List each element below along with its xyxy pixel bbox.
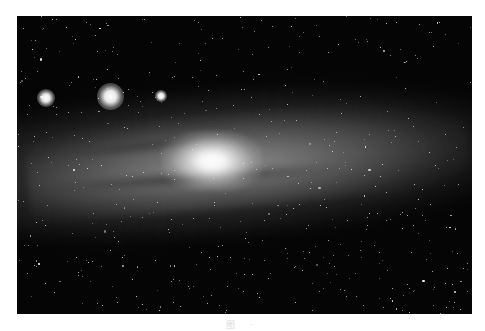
- star: [259, 114, 260, 115]
- star: [437, 23, 438, 24]
- star: [95, 87, 96, 88]
- star: [212, 38, 213, 39]
- star: [436, 102, 437, 103]
- star: [137, 96, 138, 97]
- star: [254, 31, 255, 32]
- star: [45, 283, 46, 284]
- star: [446, 227, 447, 228]
- star: [435, 165, 436, 166]
- star: [48, 157, 49, 158]
- star: [360, 250, 361, 251]
- star: [367, 217, 368, 218]
- star: [312, 283, 313, 284]
- star: [454, 302, 455, 303]
- star: [392, 288, 393, 289]
- star: [116, 204, 117, 205]
- star: [334, 266, 335, 267]
- star: [41, 16, 42, 17]
- star: [78, 76, 80, 78]
- star: [431, 32, 432, 33]
- star: [394, 130, 395, 131]
- star: [88, 262, 90, 264]
- star: [171, 219, 172, 220]
- star: [382, 260, 383, 261]
- star: [152, 92, 153, 93]
- star: [128, 105, 129, 106]
- star: [35, 40, 36, 41]
- star: [105, 50, 106, 51]
- star: [225, 193, 226, 194]
- star: [90, 24, 91, 25]
- star: [160, 306, 162, 308]
- star: [340, 244, 341, 245]
- star: [56, 114, 57, 115]
- star: [383, 50, 385, 52]
- star: [192, 149, 193, 150]
- star: [470, 27, 471, 28]
- star: [332, 151, 333, 152]
- star: [324, 139, 325, 140]
- star: [216, 108, 217, 109]
- star: [344, 290, 345, 291]
- star: [38, 263, 40, 265]
- star: [201, 154, 202, 155]
- star: [93, 213, 94, 214]
- star: [155, 97, 156, 98]
- star: [414, 184, 415, 185]
- star: [72, 233, 73, 234]
- star: [137, 266, 139, 268]
- star: [463, 127, 464, 128]
- star: [259, 297, 260, 298]
- star: [132, 176, 133, 177]
- star: [180, 306, 181, 307]
- star: [196, 144, 197, 145]
- star: [336, 182, 337, 183]
- star: [383, 307, 384, 308]
- star: [285, 248, 286, 249]
- star: [240, 221, 241, 222]
- star: [430, 253, 431, 254]
- star: [198, 86, 199, 87]
- star: [280, 218, 281, 219]
- star: [379, 263, 380, 264]
- star: [286, 214, 287, 215]
- star: [244, 274, 245, 275]
- star: [380, 47, 381, 48]
- star: [133, 199, 134, 200]
- star: [82, 303, 83, 304]
- star: [386, 192, 387, 193]
- star: [364, 175, 365, 176]
- star: [355, 39, 356, 40]
- star: [124, 207, 126, 209]
- star: [165, 140, 166, 141]
- star: [433, 289, 434, 290]
- star: [46, 48, 47, 49]
- star: [387, 111, 388, 112]
- star: [36, 260, 38, 262]
- star: [28, 245, 29, 246]
- star: [361, 204, 362, 205]
- star: [433, 305, 434, 306]
- star: [242, 27, 243, 28]
- star: [452, 251, 453, 252]
- star: [140, 101, 141, 102]
- star: [168, 174, 169, 175]
- star: [29, 105, 30, 106]
- star: [419, 24, 420, 25]
- star: [118, 241, 119, 242]
- star: [76, 257, 77, 258]
- star: [238, 288, 239, 289]
- star: [367, 225, 368, 226]
- star: [291, 67, 292, 68]
- star: [246, 232, 247, 233]
- star: [285, 85, 286, 86]
- star: [216, 75, 217, 76]
- star: [329, 263, 330, 264]
- star: [253, 79, 254, 80]
- star: [209, 257, 210, 258]
- star: [295, 18, 296, 19]
- star: [411, 252, 412, 253]
- star: [184, 113, 185, 114]
- star: [173, 302, 174, 303]
- star: [117, 54, 118, 55]
